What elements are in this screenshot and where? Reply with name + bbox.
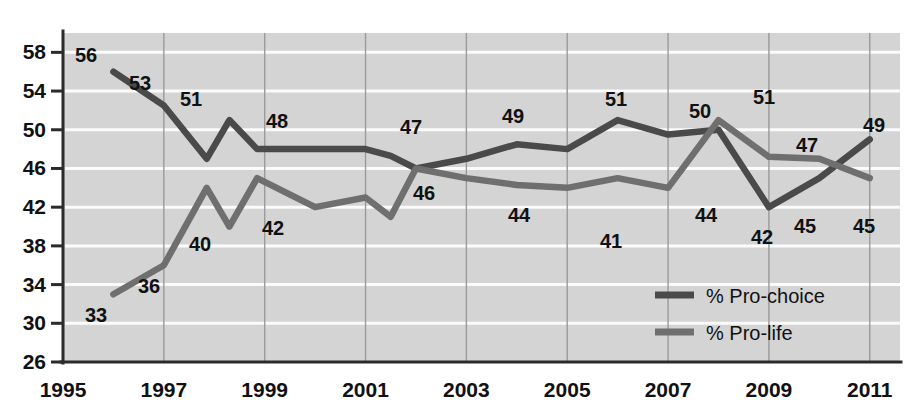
y-axis-tick-label: 26 (23, 350, 46, 373)
data-point-label: 51 (180, 88, 202, 110)
data-point-label: 44 (508, 204, 531, 226)
data-point-label: 51 (753, 86, 775, 108)
data-point-label: 40 (189, 233, 211, 255)
legend-label: % Pro-choice (706, 285, 825, 307)
y-axis-tick-label: 54 (23, 79, 47, 102)
y-axis-tick-label: 42 (23, 195, 46, 218)
y-axis-tick-label: 50 (23, 118, 46, 141)
x-axis-tick-label: 2001 (342, 378, 389, 401)
x-axis-tick-label: 1999 (241, 378, 288, 401)
data-point-label: 53 (129, 72, 151, 94)
data-point-label: 49 (863, 114, 885, 136)
data-point-label: 33 (85, 304, 107, 326)
plot-area-background (63, 33, 900, 362)
data-point-label: 45 (853, 215, 875, 237)
data-point-label: 51 (605, 88, 627, 110)
x-axis-tick-label: 1995 (40, 378, 87, 401)
x-axis-tick-label: 2005 (544, 378, 591, 401)
data-point-label: 56 (75, 44, 97, 66)
data-point-label: 42 (751, 226, 773, 248)
x-axis-tick-label: 2007 (645, 378, 692, 401)
y-axis-tick-label: 34 (23, 273, 47, 296)
x-axis-tick-label: 2009 (746, 378, 793, 401)
data-point-label: 50 (689, 100, 711, 122)
x-axis-tick-label: 1997 (140, 378, 187, 401)
data-point-label: 36 (138, 275, 160, 297)
data-point-label: 44 (695, 204, 718, 226)
x-axis-tick-labels: 199519971999200120032005200720092011 (40, 378, 893, 401)
data-point-label: 49 (502, 105, 524, 127)
legend-label: % Pro-life (706, 322, 793, 344)
y-axis-tick-label: 46 (23, 156, 46, 179)
y-axis-tick-marks (51, 52, 63, 362)
data-point-label: 45 (794, 215, 816, 237)
data-point-label: 47 (796, 134, 818, 156)
x-axis-tick-label: 2003 (443, 378, 490, 401)
data-point-label: 48 (266, 110, 288, 132)
data-point-label: 47 (400, 116, 422, 138)
chart-container: 263034384246505458 199519971999200120032… (0, 0, 918, 420)
data-point-label: 41 (600, 230, 622, 252)
data-point-label: 46 (413, 182, 435, 204)
x-axis-tick-label: 2011 (847, 378, 893, 401)
y-axis-tick-label: 38 (23, 234, 47, 257)
data-point-label: 42 (262, 217, 284, 239)
y-axis-tick-labels: 263034384246505458 (23, 40, 47, 373)
line-chart: 263034384246505458 199519971999200120032… (0, 0, 918, 420)
y-axis-tick-label: 58 (23, 40, 47, 63)
y-axis-tick-label: 30 (23, 311, 46, 334)
